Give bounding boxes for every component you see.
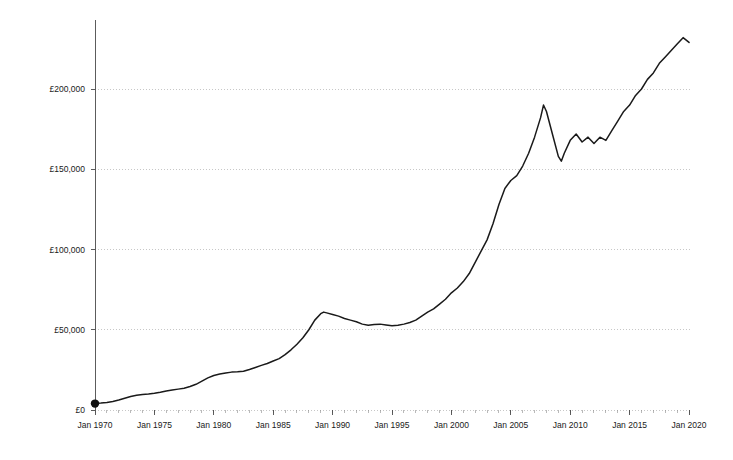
x-axis-tick-label: Jan 1980 [196, 420, 231, 430]
line-chart: £0£50,000£100,000£150,000£200,000 Jan 19… [0, 0, 733, 460]
series-start-marker [91, 399, 99, 407]
x-axis-tick-label: Jan 1975 [137, 420, 172, 430]
x-axis-tick-label: Jan 1995 [375, 420, 410, 430]
y-axis: £0£50,000£100,000£150,000£200,000 [50, 20, 95, 415]
x-axis-tick-label: Jan 2005 [493, 420, 528, 430]
series-line [95, 38, 689, 404]
x-axis-tick-label: Jan 2020 [672, 420, 707, 430]
x-axis-tick-label: Jan 1985 [256, 420, 291, 430]
y-axis-tick-label: £200,000 [50, 84, 86, 94]
y-axis-tick-label: £100,000 [50, 245, 86, 255]
gridlines-group [95, 89, 692, 330]
x-axis: Jan 1970Jan 1975Jan 1980Jan 1985Jan 1990… [78, 410, 707, 430]
series-group [91, 38, 689, 408]
y-axis-tick-label: £150,000 [50, 164, 86, 174]
x-axis-tick-label: Jan 1990 [315, 420, 350, 430]
y-axis-tick-label: £0 [76, 405, 86, 415]
x-axis-tick-label: Jan 2015 [612, 420, 647, 430]
chart-container: £0£50,000£100,000£150,000£200,000 Jan 19… [0, 0, 733, 460]
x-axis-tick-label: Jan 2000 [434, 420, 469, 430]
x-axis-tick-label: Jan 1970 [78, 420, 113, 430]
y-axis-tick-label: £50,000 [54, 325, 85, 335]
x-axis-tick-label: Jan 2010 [553, 420, 588, 430]
